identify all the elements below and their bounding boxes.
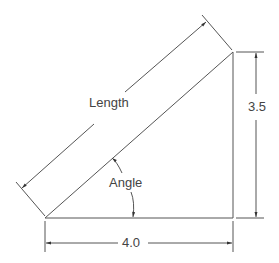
length-label: Length bbox=[88, 96, 130, 110]
angle-label: Angle bbox=[108, 176, 143, 190]
base-value: 4.0 bbox=[121, 236, 141, 250]
triangle-diagram: Length Angle 3.5 4.0 bbox=[0, 0, 279, 263]
diagram-drawing bbox=[0, 0, 279, 263]
height-value: 3.5 bbox=[247, 100, 267, 114]
triangle-shape bbox=[45, 52, 233, 218]
height-extension-lines bbox=[236, 52, 264, 218]
